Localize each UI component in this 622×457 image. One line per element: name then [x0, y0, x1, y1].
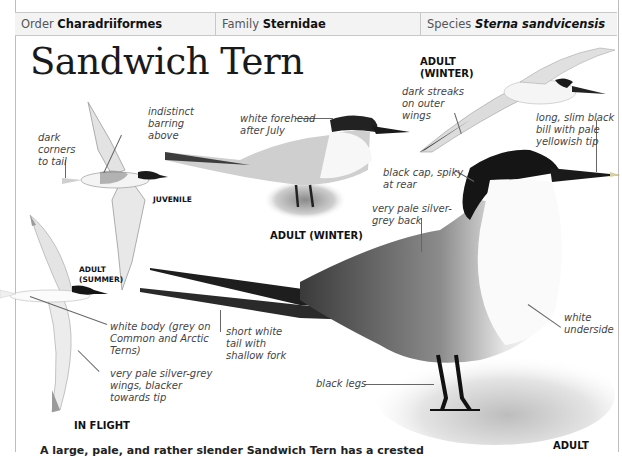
label-white-body: white body (grey on Common and Arctic Te… — [110, 321, 211, 357]
label-black-legs: black legs — [316, 378, 366, 390]
caption-juvenile: JUVENILE — [153, 195, 192, 205]
label-bill: long, slim black bill with pale yellowis… — [536, 112, 614, 148]
label-dark-corners: dark corners to tail — [38, 132, 76, 168]
caption-in-flight: IN FLIGHT — [74, 420, 130, 432]
caption-adult-winter-flight: ADULT (WINTER) — [420, 56, 474, 80]
label-silver-grey-back: very pale silver- grey back — [372, 203, 452, 227]
body-text-cut: A large, pale, and rather slender Sandwi… — [40, 444, 424, 457]
adult-summer-flight-figure — [0, 215, 108, 412]
label-tail: short white tail with shallow fork — [226, 326, 286, 362]
caption-adult-winter-standing: ADULT (WINTER) — [270, 230, 363, 242]
label-white-forehead: white forehead after July — [240, 113, 315, 137]
label-indistinct-barring: indistinct barring above — [148, 106, 194, 142]
caption-adult: ADULT — [553, 440, 589, 452]
label-black-cap: black cap, spiky at rear — [383, 167, 463, 191]
label-white-underside: white underside — [564, 312, 614, 336]
label-dark-streaks: dark streaks on outer wings — [402, 86, 464, 122]
caption-adult-summer: ADULT (SUMMER) — [79, 265, 123, 285]
label-pale-wings: very pale silver-grey wings, blacker tow… — [110, 368, 212, 404]
leader-line — [220, 310, 221, 332]
leader-line — [364, 384, 434, 385]
